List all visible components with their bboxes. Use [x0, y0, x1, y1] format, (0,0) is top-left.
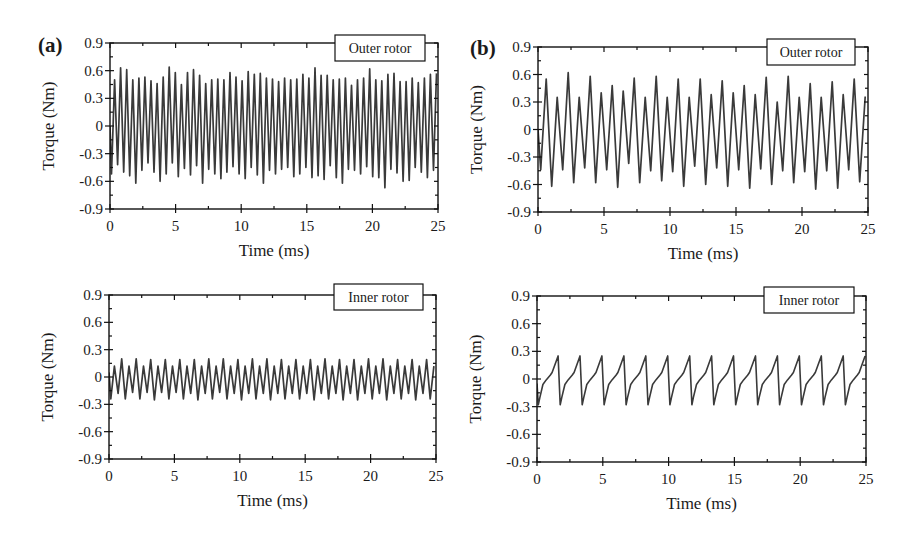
y-tick-label: 0.3 — [511, 343, 530, 359]
y-tick-label: -0.3 — [79, 146, 103, 162]
y-tick-label: -0.3 — [78, 396, 102, 412]
chart-a-outer-rotor: 05101520250.90.60.30-0.3-0.6-0.9Time (ms… — [39, 35, 446, 260]
x-tick-label: 0 — [534, 221, 542, 237]
x-tick-label: 20 — [793, 471, 808, 487]
y-tick-label: -0.3 — [507, 149, 531, 165]
x-tick-label: 0 — [533, 471, 541, 487]
x-tick-label: 25 — [861, 221, 876, 237]
y-tick-label: -0.3 — [506, 399, 530, 415]
torque-line — [110, 67, 437, 188]
x-tick-label: 25 — [429, 468, 444, 484]
series-label: Outer rotor — [780, 45, 843, 60]
x-tick-label: 0 — [106, 218, 114, 234]
y-tick-label: 0 — [95, 369, 103, 385]
y-axis-title: Torque (Nm) — [466, 335, 485, 424]
series-label: Inner rotor — [348, 290, 409, 305]
y-tick-label: -0.6 — [78, 424, 102, 440]
panel-label-a: (a) — [38, 33, 63, 57]
x-tick-label: 15 — [299, 218, 314, 234]
y-tick-label: 0.6 — [511, 316, 530, 332]
x-tick-label: 5 — [171, 468, 179, 484]
y-tick-label: 0.3 — [84, 90, 103, 106]
y-tick-label: -0.9 — [78, 451, 102, 467]
panel-label-b: (b) — [470, 36, 496, 60]
y-axis-title: Torque (Nm) — [39, 82, 58, 171]
y-tick-label: 0.9 — [512, 39, 531, 55]
x-tick-label: 25 — [431, 218, 446, 234]
y-tick-label: -0.6 — [79, 173, 103, 189]
y-tick-label: 0.6 — [84, 63, 103, 79]
x-tick-label: 10 — [232, 468, 247, 484]
y-axis-title: Torque (Nm) — [38, 333, 57, 422]
x-tick-label: 15 — [727, 471, 742, 487]
x-axis-title: Time (ms) — [239, 241, 310, 260]
y-tick-label: 0.9 — [83, 287, 102, 303]
torque-line — [538, 73, 865, 189]
x-tick-label: 0 — [105, 468, 113, 484]
series-label: Outer rotor — [349, 41, 412, 56]
x-tick-label: 25 — [859, 471, 874, 487]
x-tick-label: 5 — [600, 221, 608, 237]
x-tick-label: 20 — [795, 221, 810, 237]
x-tick-label: 5 — [599, 471, 607, 487]
y-tick-label: -0.9 — [79, 201, 103, 217]
series-label: Inner rotor — [779, 293, 840, 308]
chart-b-inner-rotor: 05101520250.90.60.30-0.3-0.6-0.9Time (ms… — [466, 287, 874, 513]
y-tick-label: 0.9 — [84, 35, 103, 51]
y-tick-label: 0 — [96, 118, 104, 134]
y-tick-label: 0.3 — [83, 342, 102, 358]
x-tick-label: 20 — [363, 468, 378, 484]
x-tick-label: 10 — [234, 218, 249, 234]
torque-figure: 05101520250.90.60.30-0.3-0.6-0.9Time (ms… — [0, 0, 912, 543]
y-tick-label: 0 — [524, 122, 532, 138]
y-tick-label: 0 — [523, 371, 531, 387]
chart-a-inner-rotor: 05101520250.90.60.30-0.3-0.6-0.9Time (ms… — [38, 284, 444, 510]
torque-line — [537, 356, 865, 405]
x-tick-label: 15 — [729, 221, 744, 237]
x-tick-label: 20 — [365, 218, 380, 234]
y-tick-label: 0.3 — [512, 94, 531, 110]
x-axis-title: Time (ms) — [668, 244, 739, 263]
x-axis-title: Time (ms) — [666, 494, 737, 513]
torque-line — [109, 359, 434, 400]
x-tick-label: 10 — [663, 221, 678, 237]
y-tick-label: 0.6 — [512, 67, 531, 83]
x-tick-label: 15 — [298, 468, 313, 484]
chart-b-outer-rotor: 05101520250.90.60.30-0.3-0.6-0.9Time (ms… — [467, 39, 876, 263]
y-axis-title: Torque (Nm) — [467, 85, 486, 174]
x-axis-title: Time (ms) — [237, 491, 308, 510]
y-tick-label: -0.9 — [507, 204, 531, 220]
y-tick-label: -0.9 — [506, 454, 530, 470]
x-tick-label: 10 — [661, 471, 676, 487]
x-tick-label: 5 — [172, 218, 180, 234]
y-tick-label: 0.9 — [511, 288, 530, 304]
y-tick-label: 0.6 — [83, 314, 102, 330]
y-tick-label: -0.6 — [506, 426, 530, 442]
y-tick-label: -0.6 — [507, 177, 531, 193]
